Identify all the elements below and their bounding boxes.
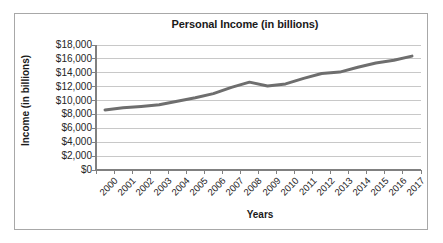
y-tick-label: $16,000 — [38, 54, 92, 64]
y-axis-title: Income (in billions) — [20, 36, 31, 166]
y-tick-label: $10,000 — [38, 96, 92, 106]
y-tick-label: $18,000 — [38, 40, 92, 50]
income-series-line — [105, 56, 412, 110]
y-tick-label: $14,000 — [38, 68, 92, 78]
x-axis-title: Years — [95, 209, 425, 220]
y-tick-label: $8,000 — [38, 109, 92, 119]
y-tick-label: $12,000 — [38, 82, 92, 92]
y-axis-tick-labels: $0$2,000$4,000$6,000$8,000$10,000$12,000… — [38, 45, 92, 170]
y-tick-label: $0 — [38, 165, 92, 175]
chart-title: Personal Income (in billions) — [70, 18, 420, 30]
y-tick-label: $4,000 — [38, 137, 92, 147]
y-tick-label: $2,000 — [38, 151, 92, 161]
chart-figure: Personal Income (in billions) Income (in… — [0, 0, 443, 243]
y-tick-label: $6,000 — [38, 123, 92, 133]
x-axis-tick-labels: 2000200120022003200420052006200720082009… — [96, 172, 421, 208]
plot-area — [96, 45, 421, 170]
line-chart-svg — [96, 45, 421, 170]
